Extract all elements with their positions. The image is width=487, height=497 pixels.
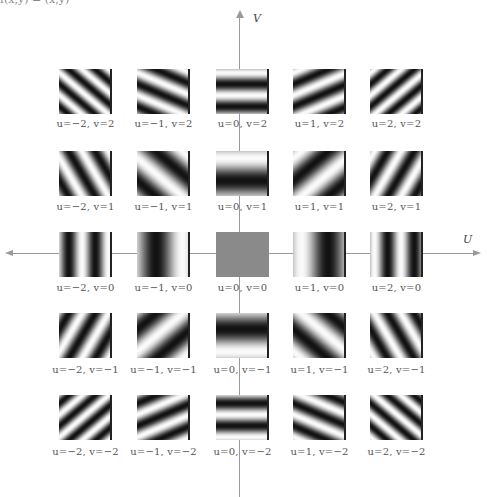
basis-tile [137,69,190,114]
basis-image [216,232,269,277]
tile-label: u=2, v=−2 [367,446,425,457]
tile-label: u=1, v=1 [295,201,345,212]
basis-tile [216,395,269,440]
basis-tile [370,232,423,277]
basis-tile [216,313,269,358]
basis-image [293,69,346,114]
basis-tile [216,151,269,196]
basis-image [293,232,346,277]
basis-image [216,395,269,440]
basis-tile [293,395,346,440]
basis-tile [59,151,112,196]
basis-image [59,313,112,358]
tile-label: u=2, v=−1 [367,364,425,375]
basis-image [137,151,190,196]
basis-tile [137,151,190,196]
u-axis-arrow-right-icon [473,250,481,256]
tile-label: u=1, v=2 [295,118,345,129]
basis-image [59,151,112,196]
basis-tile [293,151,346,196]
basis-tile [370,313,423,358]
tile-label: u=−1, v=−2 [130,446,197,457]
basis-tile [293,232,346,277]
basis-image [370,313,423,358]
basis-image [137,395,190,440]
tile-label: u=−2, v=−2 [52,446,119,457]
tile-label: u=0, v=2 [218,118,268,129]
basis-tile [370,69,423,114]
basis-tile [137,232,190,277]
basis-tile [293,69,346,114]
tile-label: u=0, v=−2 [213,446,271,457]
basis-tile [216,69,269,114]
tile-label: u=0, v=1 [218,201,268,212]
tile-label: u=−1, v=2 [134,118,192,129]
basis-tile [59,69,112,114]
basis-image [137,69,190,114]
basis-image [370,151,423,196]
basis-image [59,395,112,440]
basis-image [293,151,346,196]
basis-tile [59,395,112,440]
tile-label: u=−1, v=0 [134,282,192,293]
basis-tile [137,395,190,440]
basis-tile [370,151,423,196]
tile-label: u=−1, v=−1 [130,364,197,375]
cropped-caption-fragment: f(x,y) = (x,y) [0,0,69,6]
basis-image [370,69,423,114]
basis-tile [59,313,112,358]
basis-image [370,395,423,440]
tile-label: u=1, v=−2 [290,446,348,457]
basis-tile [216,232,269,277]
tile-label: u=−2, v=0 [56,282,114,293]
tile-label: u=−2, v=2 [56,118,114,129]
u-axis-label: U [463,233,472,246]
basis-image [59,232,112,277]
v-axis-arrow-up-icon [236,10,244,18]
basis-image [216,151,269,196]
tile-label: u=2, v=0 [372,282,422,293]
basis-image [216,69,269,114]
basis-tile [293,313,346,358]
tile-label: u=−2, v=−1 [52,364,119,375]
v-axis-label: V [253,12,261,25]
tile-label: u=2, v=1 [372,201,422,212]
basis-image [59,69,112,114]
basis-image [137,232,190,277]
basis-tile [137,313,190,358]
basis-image [137,313,190,358]
tile-label: u=2, v=2 [372,118,422,129]
basis-image [293,313,346,358]
tile-label: u=0, v=0 [218,282,268,293]
basis-image [370,232,423,277]
basis-image [216,313,269,358]
tile-label: u=1, v=−1 [290,364,348,375]
u-axis-arrow-left-icon [5,250,13,256]
fourier-basis-figure: f(x,y) = (x,y) U V u=−2, v=2u=−1, v=2u=0… [0,0,487,497]
tile-label: u=−1, v=1 [134,201,192,212]
basis-tile [59,232,112,277]
basis-tile [370,395,423,440]
tile-label: u=1, v=0 [295,282,345,293]
tile-label: u=0, v=−1 [213,364,271,375]
tile-label: u=−2, v=1 [56,201,114,212]
basis-image [293,395,346,440]
